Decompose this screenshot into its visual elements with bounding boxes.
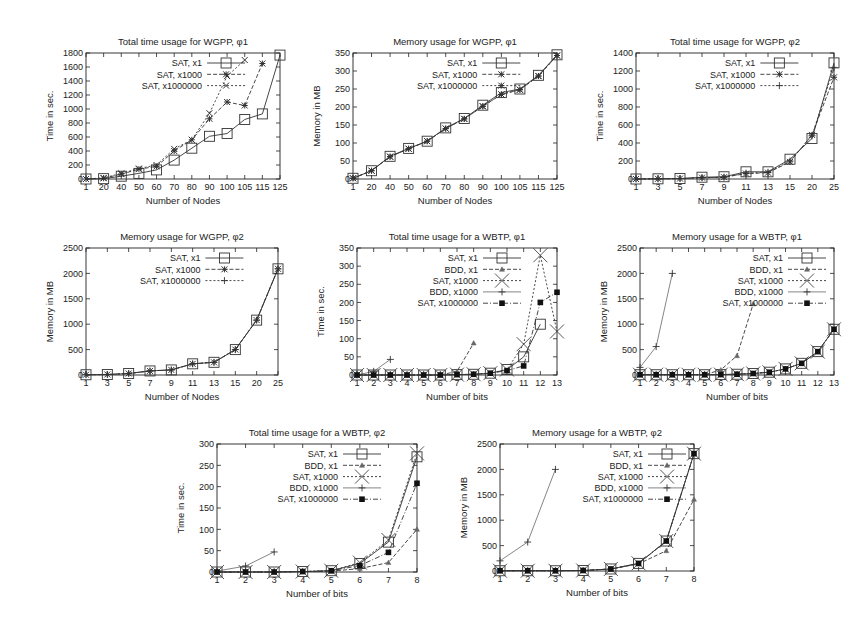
y-axis-label: Memory in MB (311, 85, 322, 146)
x-tick-label: 105 (237, 182, 252, 192)
x-tick-label: 12 (813, 378, 823, 388)
y-tick-label: 200 (618, 156, 633, 166)
marker-stroke (369, 168, 375, 174)
marker-stroke (831, 74, 837, 80)
data-point (517, 337, 531, 351)
x-tick-label: 60 (152, 182, 162, 192)
legend-label: SAT, x1 (172, 58, 202, 68)
legend-marker (223, 71, 229, 77)
data-point (554, 289, 560, 295)
y-tick-label: 100 (335, 138, 350, 148)
legend-label: SAT, x1 (170, 253, 200, 263)
x-axis-label: Number of Nodes (146, 195, 221, 206)
data-point (799, 361, 805, 367)
legend-label: BDD, x1 (444, 265, 478, 275)
y-tick-label: 100 (199, 525, 214, 535)
data-point (387, 356, 394, 363)
legend-marker (359, 496, 365, 502)
data-point (300, 569, 306, 575)
y-tick-label: 2500 (617, 243, 637, 253)
data-point (214, 569, 220, 575)
y-tick-label: 1600 (63, 62, 83, 72)
y-tick-label: 0 (78, 370, 83, 380)
legend-marker (664, 496, 670, 502)
data-point (259, 61, 265, 67)
x-tick-label: 13 (209, 378, 219, 388)
legend-label: SAT, x1000000 (140, 276, 200, 286)
x-tick-label: 115 (255, 182, 269, 192)
data-point (480, 103, 486, 109)
legend-label: SAT, x1000000 (583, 494, 643, 504)
legend-marker (495, 274, 509, 288)
data-point (670, 372, 676, 378)
data-point (414, 480, 420, 486)
legend-label: SAT, x1000 (598, 472, 643, 482)
chart-title: Memory usage for WGPP, φ1 (393, 36, 517, 47)
x-tick-label: 1 (633, 182, 638, 192)
x-tick-label: 10 (502, 378, 512, 388)
y-tick-label: 50 (344, 352, 354, 362)
chart-title: Memory usage for a WBTP, φ2 (532, 427, 662, 438)
data-point (371, 372, 377, 378)
legend-marker (804, 300, 810, 306)
data-point (242, 103, 248, 109)
legend-marker (221, 277, 228, 284)
marker-stroke (498, 71, 504, 77)
y-tick-label: 250 (339, 279, 354, 289)
data-point (636, 561, 642, 567)
chart-memory-wgpp-phi2: Memory usage for WGPP, φ2050010001500200… (44, 231, 283, 402)
legend-marker (804, 288, 811, 295)
y-tick-label: 400 (618, 138, 633, 148)
x-axis-label: Number of Nodes (145, 391, 220, 402)
x-tick-label: 50 (404, 182, 414, 192)
y-tick-label: 350 (339, 243, 354, 253)
x-tick-label: 5 (421, 378, 426, 388)
x-tick-label: 4 (404, 378, 409, 388)
data-point (831, 74, 837, 80)
legend-marker (800, 274, 814, 288)
x-tick-label: 70 (441, 182, 451, 192)
data-point (386, 550, 392, 556)
data-point (691, 451, 697, 457)
series-bdd-x1 (638, 301, 756, 376)
y-tick-label: 150 (199, 503, 214, 513)
data-point (552, 466, 559, 473)
x-tick-label: 125 (272, 182, 287, 192)
legend-label: SAT, x1000 (738, 276, 783, 286)
legend-label: SAT, x1 (613, 449, 643, 459)
y-tick-label: 1000 (63, 319, 83, 329)
legend-label: BDD, x1000 (594, 483, 643, 493)
legend: SAT, x1BDD, x1SAT, x1000BDD, x1000SAT, x… (278, 449, 381, 504)
y-tick-label: 200 (68, 160, 83, 170)
x-tick-label: 7 (664, 574, 669, 584)
x-axis-label: Number of bits (706, 391, 768, 402)
data-point (554, 53, 560, 59)
marker-stroke (223, 71, 229, 77)
x-tick-label: 6 (636, 574, 641, 584)
x-tick-label: 20 (252, 378, 262, 388)
x-tick-label: 20 (807, 182, 817, 192)
x-tick-label: 8 (691, 574, 696, 584)
data-point (702, 372, 708, 378)
data-point (653, 372, 659, 378)
chart-time-wgpp-phi1: Total time usage for WGPP, φ102004006008… (44, 36, 288, 206)
data-point (387, 154, 393, 160)
y-tick-label: 1400 (613, 48, 633, 58)
y-tick-label: 200 (339, 298, 354, 308)
legend-label: BDD, x1 (304, 461, 338, 471)
chart-title: Total time usage for a WBTP, φ1 (389, 231, 525, 242)
y-tick-label: 500 (622, 345, 637, 355)
legend-label: SAT, x1000 (433, 276, 478, 286)
x-tick-label: 50 (134, 182, 144, 192)
y-tick-label: 250 (335, 84, 350, 94)
legend-label: SAT, x1 (753, 253, 783, 263)
series-sat-x1000 (493, 447, 701, 578)
data-point (735, 353, 740, 358)
data-point (637, 372, 643, 378)
marker-stroke (242, 103, 248, 109)
y-axis-label: Time in sec. (44, 91, 55, 142)
marker-stroke (480, 103, 486, 109)
legend-marker (499, 300, 505, 306)
y-tick-label: 0 (78, 174, 83, 184)
x-tick-label: 3 (272, 575, 277, 585)
